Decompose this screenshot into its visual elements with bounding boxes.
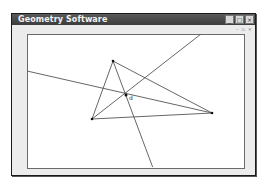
line-through-center-diagonal[interactable] [92,34,201,119]
point-c[interactable] [211,112,214,115]
point-center[interactable] [125,94,128,97]
point-a[interactable] [112,60,115,63]
line-through-center-vertical[interactable] [113,61,153,168]
point-b[interactable] [91,118,94,121]
geometry-drawing: d [0,0,265,191]
center-point-label: d [129,94,133,101]
triangle-side-ac[interactable] [113,61,212,113]
triangle-side-bc[interactable] [92,113,212,119]
